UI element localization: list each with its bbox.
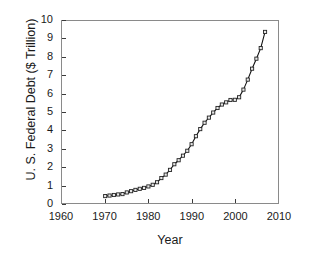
y-tick-mark xyxy=(62,20,66,21)
x-tick-label: 1960 xyxy=(37,210,85,222)
x-tick-mark xyxy=(192,199,193,203)
x-axis-title: Year xyxy=(61,233,279,247)
y-tick-mark xyxy=(62,112,66,113)
data-point-markers xyxy=(104,30,267,197)
data-point xyxy=(238,96,241,99)
data-point xyxy=(117,193,120,196)
data-point xyxy=(104,195,107,198)
data-point xyxy=(112,193,115,196)
data-point xyxy=(134,188,137,191)
data-point xyxy=(125,191,128,194)
data-point xyxy=(255,57,258,60)
data-point xyxy=(160,176,163,179)
data-point xyxy=(216,106,219,109)
chart-figure: 012345678910 196019701980199020002010 U.… xyxy=(0,0,312,264)
data-point xyxy=(138,187,141,190)
data-point xyxy=(130,190,133,193)
data-point xyxy=(147,185,150,188)
data-point xyxy=(121,192,124,195)
debt-line xyxy=(105,32,265,196)
data-point xyxy=(233,98,236,101)
data-point xyxy=(199,128,202,131)
data-point xyxy=(168,168,171,171)
y-tick-label: 0 xyxy=(19,198,53,209)
data-point xyxy=(259,47,262,50)
x-tick-label: 2010 xyxy=(255,210,303,222)
series-canvas xyxy=(62,21,278,203)
plot-area xyxy=(61,20,279,204)
data-point xyxy=(186,149,189,152)
y-axis-title: U. S. Federal Debt ($ Trillion) xyxy=(25,5,38,195)
y-tick-mark xyxy=(62,38,66,39)
data-point xyxy=(151,183,154,186)
data-point xyxy=(207,116,210,119)
data-point xyxy=(229,98,232,101)
data-point xyxy=(142,186,145,189)
data-point xyxy=(220,103,223,106)
data-point xyxy=(164,173,167,176)
y-tick-mark xyxy=(62,149,66,150)
data-point xyxy=(173,163,176,166)
y-tick-mark xyxy=(62,186,66,187)
data-point xyxy=(177,159,180,162)
x-tick-label: 2000 xyxy=(211,210,259,222)
x-tick-mark xyxy=(235,199,236,203)
x-tick-label: 1980 xyxy=(124,210,172,222)
data-point xyxy=(203,121,206,124)
data-point xyxy=(181,154,184,157)
data-point xyxy=(250,67,253,70)
y-tick-mark xyxy=(62,75,66,76)
data-point xyxy=(108,194,111,197)
x-tick-mark xyxy=(148,199,149,203)
y-tick-mark xyxy=(62,204,66,205)
y-tick-mark xyxy=(62,130,66,131)
x-tick-label: 1990 xyxy=(168,210,216,222)
data-point xyxy=(263,30,266,33)
data-point xyxy=(242,88,245,91)
x-tick-mark xyxy=(105,199,106,203)
data-point xyxy=(246,78,249,81)
x-tick-label: 1970 xyxy=(81,210,129,222)
y-tick-mark xyxy=(62,167,66,168)
y-tick-mark xyxy=(62,57,66,58)
data-point xyxy=(155,181,158,184)
data-point xyxy=(190,143,193,146)
y-tick-mark xyxy=(62,94,66,95)
data-point xyxy=(212,111,215,114)
data-point xyxy=(194,135,197,138)
data-point xyxy=(225,101,228,104)
